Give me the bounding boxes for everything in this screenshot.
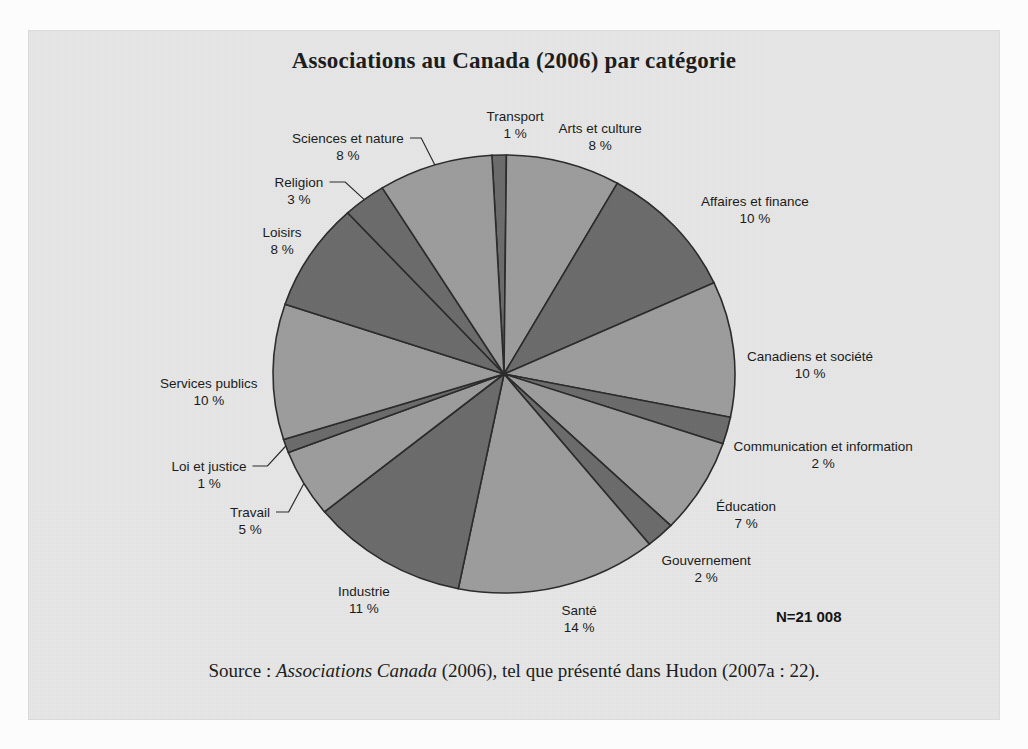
pie-slice-label-name: Travail [230, 505, 270, 520]
pie-slice-label-name: Arts et culture [559, 121, 642, 136]
figure-panel: Associations au Canada (2006) par catégo… [28, 30, 1000, 720]
pie-slice-label: Services publics10 % [160, 375, 258, 409]
source-title: Associations Canada [276, 660, 437, 681]
pie-slice-label-name: Santé [562, 603, 597, 618]
source-note: Source : Associations Canada (2006), tel… [28, 660, 1000, 682]
pie-slice-label-percent: 8 % [263, 241, 302, 258]
pie-slice-label-name: Loisirs [263, 225, 302, 240]
pie-slice-label-percent: 11 % [338, 600, 390, 617]
label-leader-line [330, 182, 365, 200]
pie-slice-label: Travail5 % [230, 504, 270, 538]
pie-slice-label: Religion3 % [275, 174, 324, 208]
pie-slice-label-percent: 10 % [701, 210, 809, 227]
pie-slice-label-name: Affaires et finance [701, 194, 809, 209]
pie-slice-label: Affaires et finance10 % [701, 193, 809, 227]
pie-slice-label-percent: 14 % [562, 619, 597, 636]
label-leader-line [410, 138, 435, 165]
pie-slice-label: Éducation7 % [716, 498, 776, 532]
pie-slice-label: Loisirs8 % [263, 224, 302, 258]
pie-slice-label-percent: 1 % [487, 125, 544, 142]
pie-slice-label-name: Religion [275, 175, 324, 190]
pie-slice-label-percent: 2 % [734, 455, 913, 472]
pie-slice-label: Gouvernement2 % [662, 552, 751, 586]
pie-slice-label-name: Sciences et nature [292, 131, 404, 146]
pie-slice-label: Transport1 % [487, 108, 544, 142]
pie-slice-label-percent: 10 % [160, 392, 258, 409]
pie-slice-label: Arts et culture8 % [559, 120, 642, 154]
pie-slice-label-percent: 3 % [275, 191, 324, 208]
pie-slice-label-percent: 1 % [172, 475, 247, 492]
pie-slice-label-name: Canadiens et société [747, 349, 873, 364]
pie-slice-label-name: Transport [487, 109, 544, 124]
source-prefix: Source : [208, 660, 276, 681]
pie-slice-group [273, 155, 735, 593]
pie-slice-label-percent: 2 % [662, 569, 751, 586]
pie-slice-label-percent: 10 % [747, 365, 873, 382]
pie-slice-label-percent: 8 % [559, 137, 642, 154]
source-suffix: (2006), tel que présenté dans Hudon (200… [437, 660, 820, 681]
pie-slice-label-percent: 5 % [230, 521, 270, 538]
pie-slice-label-name: Industrie [338, 584, 390, 599]
pie-slice-label: Sciences et nature8 % [292, 130, 404, 164]
pie-slice-label: Santé14 % [562, 602, 597, 636]
pie-slice-label-name: Éducation [716, 499, 776, 514]
pie-slice-label-name: Gouvernement [662, 553, 751, 568]
pie-slice-label: Industrie11 % [338, 583, 390, 617]
pie-slice-label: Loi et justice1 % [172, 458, 247, 492]
label-leader-line [253, 446, 286, 466]
label-leader-line [276, 484, 304, 513]
total-count-label: N=21 008 [776, 608, 841, 625]
pie-slice-label-percent: 7 % [716, 515, 776, 532]
pie-slice-label-name: Loi et justice [172, 459, 247, 474]
pie-slice-label-name: Services publics [160, 376, 258, 391]
pie-slice-label-percent: 8 % [292, 147, 404, 164]
pie-slice-label: Communication et information2 % [734, 438, 913, 472]
pie-slice-label-name: Communication et information [734, 439, 913, 454]
figure-page: Associations au Canada (2006) par catégo… [0, 0, 1028, 749]
pie-slice-label: Canadiens et société10 % [747, 348, 873, 382]
